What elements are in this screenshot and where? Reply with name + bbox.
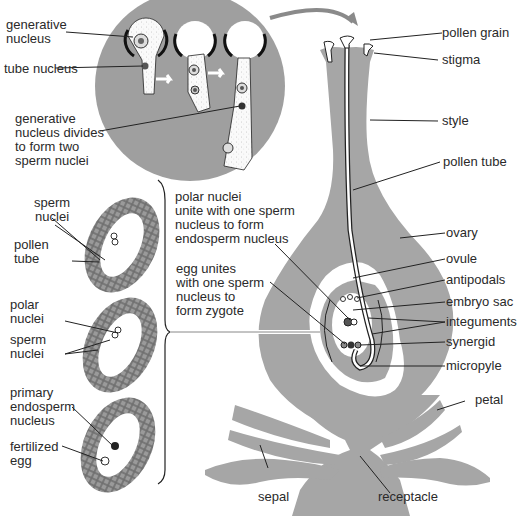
label-antipodals: antipodals xyxy=(446,273,505,287)
label-petal: petal xyxy=(475,393,503,407)
label-pollen-tube: pollen tube xyxy=(443,155,507,169)
label-tube-nucleus: tube nucleus xyxy=(4,62,78,76)
label-embryo-sac: embryo sac xyxy=(446,295,513,309)
label-pollen-tube-1: pollen tube xyxy=(14,238,49,266)
label-fertilized-egg: fertilized egg xyxy=(10,440,58,468)
label-ovary: ovary xyxy=(446,226,478,240)
label-integuments: integuments xyxy=(446,315,517,329)
label-sepal: sepal xyxy=(258,490,289,504)
label-sperm-nuclei-2: sperm nuclei xyxy=(10,333,46,361)
diagram-art xyxy=(0,0,517,516)
label-polar-nuclei-2: polar nuclei xyxy=(10,298,44,326)
curved-arrow xyxy=(270,10,353,22)
label-polar-nuclei-unite: polar nuclei unite with one sperm nucleu… xyxy=(175,190,295,246)
ovule-stage-1 xyxy=(70,185,174,304)
brace xyxy=(158,180,170,484)
label-style: style xyxy=(442,114,469,128)
label-micropyle: micropyle xyxy=(446,359,502,373)
label-primary-endosperm: primary endosperm nucleus xyxy=(10,386,75,428)
pollen-germination-inset xyxy=(95,0,285,181)
label-generative-nucleus: generative nucleus xyxy=(6,18,67,46)
label-generative-divides: generative nucleus divides to form two s… xyxy=(15,112,104,168)
label-synergid: synergid xyxy=(446,335,495,349)
label-ovule: ovule xyxy=(446,252,477,266)
label-egg-unites: egg unites with one sperm nucleus to for… xyxy=(176,262,264,318)
label-sperm-nuclei-1: sperm nuclei xyxy=(34,196,70,224)
label-stigma: stigma xyxy=(442,53,480,67)
label-receptacle: receptacle xyxy=(378,490,438,504)
label-pollen-grain: pollen grain xyxy=(442,26,509,40)
ovule-stage-2 xyxy=(68,285,172,404)
ovule-stage-3 xyxy=(66,385,170,504)
